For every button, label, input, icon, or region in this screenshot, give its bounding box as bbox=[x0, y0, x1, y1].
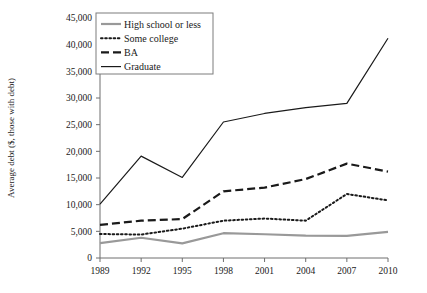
series-line-ba bbox=[100, 164, 388, 225]
x-axis-tick-label: 1989 bbox=[91, 266, 110, 276]
y-axis-tick-label: 10,000 bbox=[66, 200, 92, 210]
legend-label: High school or less bbox=[124, 19, 201, 30]
legend-label: Graduate bbox=[124, 61, 161, 72]
x-axis-tick-label: 2001 bbox=[255, 266, 274, 276]
y-axis-tick-label: 5,000 bbox=[71, 227, 93, 237]
y-axis-tick-label: 20,000 bbox=[66, 147, 92, 157]
x-axis-tick-label: 1998 bbox=[214, 266, 233, 276]
x-axis-tick-label: 1992 bbox=[132, 266, 151, 276]
y-axis-tick-label: 40,000 bbox=[66, 40, 92, 50]
line-chart: 05,00010,00015,00020,00025,00030,00035,0… bbox=[0, 0, 427, 293]
y-axis-tick-label: 25,000 bbox=[66, 120, 92, 130]
x-axis-tick-label: 2010 bbox=[379, 266, 398, 276]
y-axis-tick-label: 30,000 bbox=[66, 93, 92, 103]
y-axis-tick-label: 35,000 bbox=[66, 67, 92, 77]
x-axis-tick-label: 2007 bbox=[337, 266, 356, 276]
y-axis-tick-label: 15,000 bbox=[66, 173, 92, 183]
series-line-some-college bbox=[100, 194, 388, 235]
legend-label: Some college bbox=[124, 33, 179, 44]
y-axis-tick-label: 45,000 bbox=[66, 13, 92, 23]
chart-figure: 05,00010,00015,00020,00025,00030,00035,0… bbox=[0, 0, 427, 293]
y-axis-tick-label: 0 bbox=[87, 253, 92, 263]
legend-label: BA bbox=[124, 47, 139, 58]
x-axis-tick-label: 1995 bbox=[173, 266, 192, 276]
y-axis-title: Average debt ($, those with debt) bbox=[6, 78, 16, 198]
x-axis-tick-label: 2004 bbox=[296, 266, 315, 276]
